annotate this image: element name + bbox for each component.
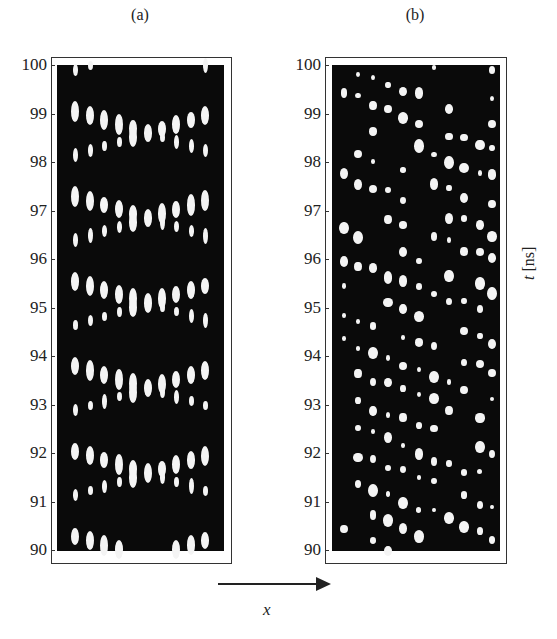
spot <box>340 168 348 179</box>
y-tick-mark <box>51 114 55 115</box>
y-tick-mark <box>325 502 329 503</box>
spot <box>400 197 406 204</box>
y-tick-label: 92 <box>281 444 321 461</box>
spot <box>432 65 436 69</box>
spot <box>102 141 107 152</box>
spot <box>490 505 494 510</box>
y-tick-mark <box>325 114 329 115</box>
spot <box>201 106 209 125</box>
spot <box>415 338 424 347</box>
spot <box>477 333 482 340</box>
arrow-line <box>218 583 318 585</box>
y-tick-label: 93 <box>281 396 321 413</box>
spot <box>201 532 209 549</box>
spot <box>129 460 137 479</box>
spot <box>478 170 483 176</box>
spot <box>369 263 378 273</box>
spot <box>102 480 107 493</box>
spot <box>385 465 391 471</box>
spot <box>71 357 79 375</box>
spot <box>174 221 179 232</box>
spot <box>490 96 494 101</box>
y-tick-label: 92 <box>7 444 47 461</box>
spot <box>487 231 497 242</box>
spot <box>476 360 484 368</box>
spot <box>100 535 108 556</box>
y-tick-label: 98 <box>7 153 47 170</box>
spot <box>100 281 108 299</box>
y-axis-unit: [ns] <box>520 247 537 272</box>
spot <box>368 484 378 497</box>
y-tick-label: 97 <box>7 202 47 219</box>
spot <box>187 366 195 385</box>
spot <box>369 127 378 136</box>
spot <box>203 144 208 157</box>
spot <box>386 491 390 497</box>
spot <box>444 512 453 524</box>
spot <box>488 369 496 377</box>
y-tick-label: 90 <box>281 541 321 558</box>
spot <box>86 360 94 381</box>
spot <box>400 466 406 473</box>
spot <box>88 228 93 244</box>
spot <box>445 104 453 114</box>
spot <box>460 134 468 142</box>
spot <box>461 359 466 366</box>
spot <box>369 101 377 110</box>
spot <box>71 186 79 207</box>
spot <box>476 248 484 257</box>
spot <box>400 167 405 173</box>
spot <box>86 191 94 211</box>
spot <box>432 508 436 513</box>
spot <box>414 530 424 543</box>
y-tick-label: 90 <box>7 541 47 558</box>
spot <box>117 221 122 233</box>
spot <box>73 64 78 77</box>
spot <box>417 475 422 480</box>
spot <box>488 200 496 209</box>
y-tick-label: 99 <box>281 105 321 122</box>
spot <box>401 443 406 448</box>
spot <box>203 401 208 410</box>
spot <box>489 450 495 458</box>
spot <box>415 448 424 460</box>
y-tick-mark <box>51 502 55 503</box>
spot <box>385 82 391 89</box>
y-tick-mark <box>51 405 55 406</box>
spot <box>160 215 165 231</box>
spot <box>189 225 194 237</box>
spot <box>446 460 451 467</box>
spot <box>354 179 363 191</box>
spot <box>71 528 79 545</box>
spot <box>203 313 208 329</box>
spot <box>172 371 180 388</box>
spot <box>160 133 165 142</box>
spot <box>102 394 107 410</box>
spot <box>401 335 405 340</box>
panel-a-title: (a) <box>110 6 170 24</box>
spot <box>201 446 209 466</box>
spot <box>399 221 407 229</box>
spot <box>187 112 195 129</box>
spot <box>73 489 78 501</box>
spot <box>201 278 209 294</box>
spot <box>399 87 407 96</box>
spot <box>460 327 468 335</box>
spot <box>88 144 93 156</box>
spot <box>356 319 361 324</box>
spot <box>461 215 467 221</box>
spot <box>115 540 123 558</box>
spot <box>447 379 452 384</box>
spot <box>445 213 453 224</box>
spot <box>203 58 208 73</box>
spot <box>371 159 376 164</box>
panel-b-title: (b) <box>385 6 445 24</box>
y-tick-mark <box>325 211 329 212</box>
y-tick-label: 100 <box>7 56 47 73</box>
spot <box>431 291 437 297</box>
spot <box>117 392 122 401</box>
spot <box>356 346 360 351</box>
spot <box>475 413 484 422</box>
spot <box>189 139 194 153</box>
spot <box>88 315 93 326</box>
